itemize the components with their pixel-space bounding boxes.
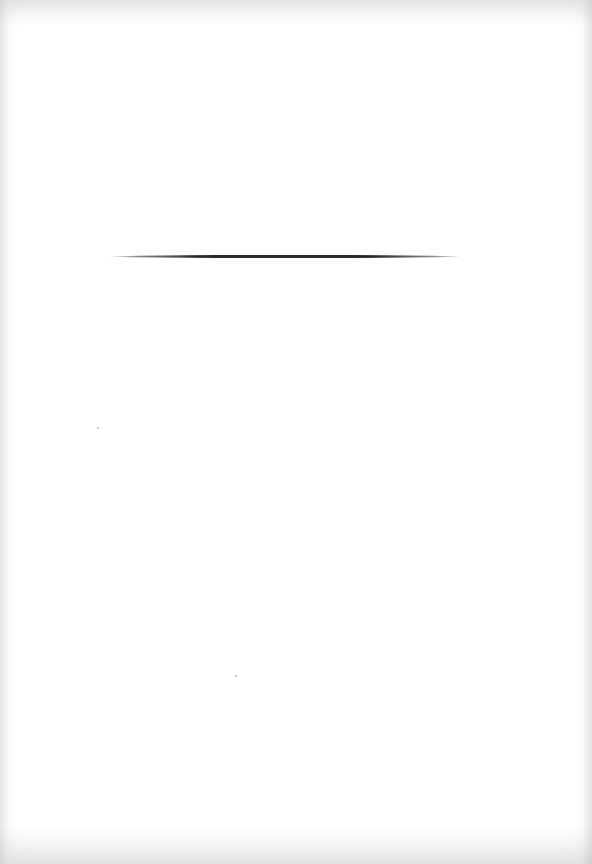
scan-edge-top — [0, 0, 592, 26]
scanned-page — [0, 0, 592, 864]
scan-edge-right — [582, 0, 592, 864]
scan-speck — [235, 675, 237, 677]
scan-speck — [97, 427, 99, 429]
horizontal-rule — [108, 255, 462, 258]
scan-edge-left — [0, 0, 8, 864]
scan-edge-bottom — [0, 824, 592, 864]
